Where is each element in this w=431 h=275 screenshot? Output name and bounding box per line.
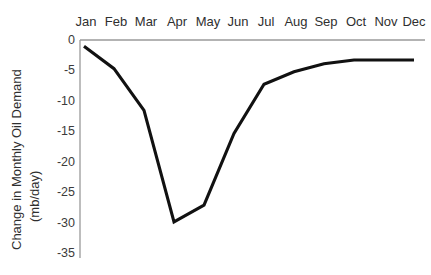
x-tick-label-may: May (196, 14, 221, 29)
x-tick-label-oct: Oct (346, 14, 367, 29)
x-tick-label-jun: Jun (228, 14, 249, 29)
y-tick-label: -20 (57, 155, 75, 169)
oil-demand-line-chart: Change in Monthly Oil Demand (mb/day) 0 … (0, 0, 431, 275)
x-tick-label-jul: Jul (258, 14, 275, 29)
y-axis-tick-labels: 0 -5 -10 -15 -20 -25 -30 -35 (57, 33, 75, 260)
x-tick-label-dec: Dec (402, 14, 426, 29)
chart-canvas: Change in Monthly Oil Demand (mb/day) 0 … (0, 0, 431, 275)
y-axis-title-line1: Change in Monthly Oil Demand (9, 69, 24, 250)
y-axis-title-group: Change in Monthly Oil Demand (mb/day) (9, 69, 42, 250)
x-tick-label-nov: Nov (374, 14, 398, 29)
x-tick-label-jan: Jan (76, 14, 97, 29)
y-tick-label: -5 (64, 63, 75, 77)
data-series-line (84, 46, 414, 222)
x-tick-label-aug: Aug (284, 14, 307, 29)
y-axis-title-line2: (mb/day) (27, 171, 42, 222)
y-tick-label: -10 (57, 94, 75, 108)
y-tick-label: -30 (57, 216, 75, 230)
y-tick-label: -35 (57, 246, 75, 260)
y-tick-label: 0 (68, 33, 75, 47)
x-axis-month-labels: Jan Feb Mar Apr May Jun Jul Aug Sep Oct … (76, 14, 427, 29)
y-tick-label: -15 (57, 124, 75, 138)
y-tick-label: -25 (57, 185, 75, 199)
x-tick-label-mar: Mar (135, 14, 158, 29)
x-tick-label-sep: Sep (314, 14, 337, 29)
x-tick-label-feb: Feb (105, 14, 127, 29)
x-tick-label-apr: Apr (167, 14, 188, 29)
